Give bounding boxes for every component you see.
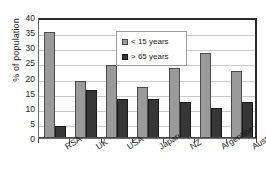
bar-group — [195, 20, 226, 138]
legend-swatch-old-icon — [122, 54, 128, 60]
bar-young — [75, 81, 86, 138]
x-category-label: Australia — [250, 143, 255, 151]
bar-young — [44, 32, 55, 138]
bar-old — [211, 108, 222, 138]
y-tick-label: 35 — [14, 28, 35, 38]
bar-group — [227, 20, 258, 138]
x-category-label: RSA — [63, 143, 68, 151]
x-axis-category-labels: RSAUKUSAJapanNZArgentineAustralia — [38, 143, 257, 188]
legend-item-young: < 15 years — [122, 34, 186, 49]
y-tick-label: 15 — [14, 89, 35, 99]
bar-group — [39, 20, 70, 138]
x-category-label: USA — [125, 143, 130, 151]
bar-young — [106, 65, 117, 138]
legend-item-old: > 65 years — [122, 49, 186, 64]
bar-old — [117, 99, 128, 138]
x-category-label: NZ — [188, 143, 193, 151]
x-category-label: UK — [94, 143, 99, 151]
y-tick-label: 10 — [14, 104, 35, 114]
y-tick-label: 20 — [14, 74, 35, 84]
bar-old — [180, 102, 191, 138]
bar-group — [70, 20, 101, 138]
y-tick-label: 40 — [14, 13, 35, 23]
legend-swatch-young-icon — [122, 39, 128, 45]
legend-label-old: > 65 years — [131, 52, 169, 61]
y-tick-label: 30 — [14, 43, 35, 53]
y-axis-tick-labels: 4035302520151050 — [14, 18, 35, 139]
y-tick-label: 25 — [14, 58, 35, 68]
bar-old — [86, 90, 97, 138]
bar-chart: % of population 4035302520151050 RSAUKUS… — [0, 0, 266, 188]
bar-young — [169, 68, 180, 138]
bar-young — [137, 87, 148, 138]
y-tick-label: 0 — [14, 134, 35, 144]
bar-young — [200, 53, 211, 138]
legend-label-young: < 15 years — [131, 37, 169, 46]
x-category-label: Argentine — [219, 143, 224, 151]
chart-legend: < 15 years > 65 years — [116, 31, 187, 66]
x-category-label: Japan — [157, 143, 162, 151]
y-tick-label: 5 — [14, 119, 35, 129]
bar-old — [148, 99, 159, 138]
